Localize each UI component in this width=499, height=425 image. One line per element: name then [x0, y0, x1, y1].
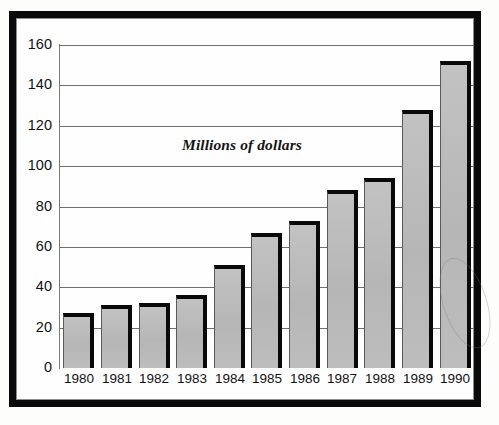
bar	[63, 313, 94, 368]
bar	[139, 303, 170, 368]
x-axis-tick-label: 1986	[286, 372, 324, 386]
x-axis-tick-label: 1989	[399, 372, 437, 386]
bar-fill	[252, 237, 278, 368]
bar-fill	[365, 182, 391, 368]
bar-fill	[328, 194, 354, 368]
x-axis-tick-label: 1990	[436, 372, 474, 386]
bar-fill	[215, 269, 241, 368]
bar	[176, 295, 207, 368]
bar-fill	[177, 299, 203, 368]
bar	[440, 61, 471, 368]
x-axis-tick-label: 1988	[361, 372, 399, 386]
gridline	[60, 85, 474, 86]
bar	[251, 233, 282, 368]
y-axis-tick-label: 20	[10, 320, 52, 335]
y-axis-tick-label: 0	[10, 360, 52, 375]
y-axis-tick-label: 100	[10, 158, 52, 173]
x-axis-tick-label: 1984	[211, 372, 249, 386]
y-axis-tick-label: 140	[10, 77, 52, 92]
bar-chart-plot: 020406080100120140160 198019811982198319…	[0, 0, 499, 425]
chart-page: 020406080100120140160 198019811982198319…	[0, 0, 499, 425]
bar-fill	[441, 65, 467, 368]
bar	[364, 178, 395, 368]
y-axis-tick-label: 160	[10, 37, 52, 52]
y-axis-tick-label: 40	[10, 279, 52, 294]
bar-fill	[403, 114, 429, 368]
y-axis-tick-label: 120	[10, 118, 52, 133]
y-axis-tick-label: 60	[10, 239, 52, 254]
x-axis-tick-label: 1983	[173, 372, 211, 386]
x-axis-tick-label: 1985	[248, 372, 286, 386]
bar	[214, 265, 245, 368]
x-axis-tick-label: 1982	[135, 372, 173, 386]
x-axis-tick-label: 1981	[98, 372, 136, 386]
y-axis-tick-label: 80	[10, 199, 52, 214]
bar-fill	[290, 225, 316, 368]
bar-fill	[140, 307, 166, 368]
bar-fill	[64, 317, 90, 368]
chart-annotation-label: Millions of dollars	[182, 136, 302, 154]
bar	[289, 221, 320, 368]
x-axis-tick-label: 1987	[323, 372, 361, 386]
bar	[327, 190, 358, 368]
gridline	[60, 45, 474, 46]
x-axis-tick-label: 1980	[60, 372, 98, 386]
bar-fill	[102, 309, 128, 368]
bar	[101, 305, 132, 368]
bar	[402, 110, 433, 368]
